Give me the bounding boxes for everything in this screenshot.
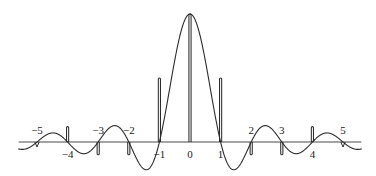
x-tick-label-0: 0 [187,149,193,160]
x-tick-label-neg2: −2 [123,125,135,136]
sample-impulse [158,78,160,142]
sample-impulse [128,142,130,155]
x-tick-label-4: 4 [310,149,316,160]
sample-impulse-group [35,14,345,155]
x-tick-label-1: 1 [218,149,224,160]
x-tick-label-neg4: −4 [62,149,74,160]
x-tick-label-neg3: −3 [92,125,104,136]
sample-impulse [97,142,99,155]
x-tick-label-5: 5 [340,125,346,136]
sample-impulse [220,78,222,142]
sinc-envelope-curve [19,14,362,170]
sample-impulse [311,127,313,142]
x-tick-label-3: 3 [279,125,285,136]
x-tick-label-neg1: −1 [154,149,166,160]
sinc-sampling-figure: −5−4−3−2−1012345 [0,0,376,176]
x-tick-label-neg5: −5 [31,125,43,136]
sinc-envelope-path [19,14,362,170]
sample-impulse [281,142,283,155]
x-tick-label-2: 2 [248,125,254,136]
sample-impulse-zero [341,142,345,147]
sample-impulse [189,14,191,142]
sample-impulse-zero [35,142,39,147]
sample-impulse [67,127,69,142]
sample-impulse [250,142,252,155]
